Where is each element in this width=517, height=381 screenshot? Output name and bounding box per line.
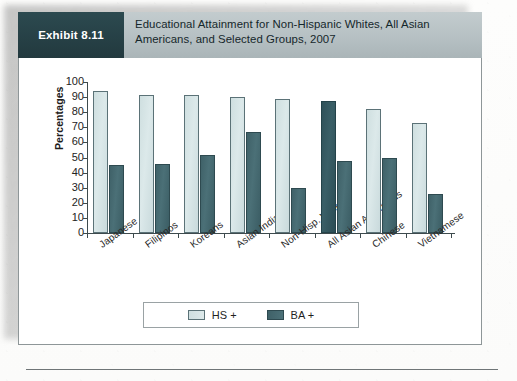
- legend-swatch-ba-icon: [267, 310, 284, 320]
- x-axis-line: [87, 233, 455, 234]
- legend-label: HS +: [212, 309, 237, 321]
- bar-hs-koreans: [184, 95, 199, 233]
- y-tick-label: 100: [60, 75, 84, 87]
- x-tick-mark: [133, 234, 134, 238]
- x-tick-mark: [360, 234, 361, 238]
- legend-swatch-hs-icon: [188, 310, 205, 320]
- chart-panel: Percentages 0102030405060708090100 Japan…: [18, 58, 482, 345]
- y-tick-mark: [83, 218, 87, 219]
- y-tick-label: 20: [60, 196, 84, 208]
- y-tick-label: 10: [60, 211, 84, 223]
- y-tick-mark: [83, 127, 87, 128]
- x-tick-mark: [315, 234, 316, 238]
- y-tick-label: 0: [60, 226, 84, 238]
- y-tick-label: 50: [60, 151, 84, 163]
- y-tick-label: 30: [60, 181, 84, 193]
- x-tick-mark: [406, 234, 407, 238]
- bar-hs-non-hisp-whites: [275, 99, 290, 233]
- y-tick-mark: [83, 188, 87, 189]
- y-tick-label: 70: [60, 120, 84, 132]
- x-tick-mark: [178, 234, 179, 238]
- x-tick-mark: [87, 234, 88, 238]
- page-rule: [26, 369, 498, 370]
- y-tick-mark: [83, 142, 87, 143]
- bar-hs-asian-indians: [230, 97, 245, 233]
- bar-hs-all-asian-americans: [321, 101, 336, 233]
- y-tick-label: 90: [60, 90, 84, 102]
- x-tick-mark: [451, 234, 452, 238]
- y-tick-label: 80: [60, 105, 84, 117]
- y-tick-label: 60: [60, 135, 84, 147]
- chart-legend: HS +BA +: [143, 302, 359, 328]
- x-tick-mark: [224, 234, 225, 238]
- bar-hs-vietnamese: [412, 123, 427, 233]
- bar-ba-asian-indians: [246, 132, 261, 233]
- y-axis-line: [87, 82, 88, 234]
- x-tick-mark: [269, 234, 270, 238]
- bar-hs-japanese: [93, 91, 108, 233]
- exhibit-card: Exhibit 8.11 Educational Attainment for …: [18, 12, 482, 346]
- bar-hs-chinese: [366, 109, 381, 233]
- legend-label: BA +: [291, 309, 315, 321]
- y-tick-mark: [83, 82, 87, 83]
- y-tick-label: 40: [60, 166, 84, 178]
- exhibit-header: Exhibit 8.11 Educational Attainment for …: [18, 12, 482, 58]
- exhibit-number-badge: Exhibit 8.11: [18, 12, 124, 58]
- y-tick-mark: [83, 158, 87, 159]
- y-tick-mark: [83, 173, 87, 174]
- exhibit-title: Educational Attainment for Non-Hispanic …: [124, 12, 482, 58]
- y-axis-tick-labels: 0102030405060708090100: [60, 58, 84, 344]
- legend-item-hs: HS +: [188, 309, 237, 321]
- legend-item-ba: BA +: [267, 309, 315, 321]
- y-tick-mark: [83, 112, 87, 113]
- y-tick-mark: [83, 203, 87, 204]
- y-tick-mark: [83, 97, 87, 98]
- bar-hs-filipinos: [139, 95, 154, 233]
